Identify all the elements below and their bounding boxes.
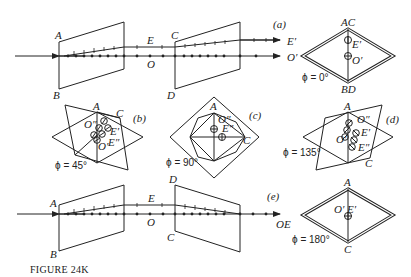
- svg-text:E′: E′: [360, 126, 371, 138]
- label-E: E: [146, 34, 154, 46]
- svg-text:O′: O′: [352, 54, 363, 66]
- label-C: C: [171, 29, 179, 41]
- svg-text:OE: OE: [276, 218, 291, 230]
- svg-text:ϕ = 0°: ϕ = 0°: [302, 72, 329, 83]
- panel-tag-a: (a): [273, 18, 286, 31]
- svg-text:ϕ = 45°: ϕ = 45°: [55, 160, 87, 171]
- svg-text:D: D: [168, 173, 177, 185]
- svg-text:ϕ = 180°: ϕ = 180°: [292, 234, 330, 245]
- svg-text:C: C: [116, 107, 124, 119]
- panel-tag-d: (d): [386, 113, 399, 126]
- svg-text:E″: E″: [107, 136, 120, 148]
- label-O-prime: O′: [287, 51, 298, 63]
- svg-text:C: C: [243, 134, 251, 146]
- birefringence-figure: A B E O C: [0, 0, 411, 277]
- label-E-prime: E′: [286, 35, 297, 47]
- svg-text:O″: O″: [84, 118, 97, 130]
- panel-tag-e: (e): [267, 190, 280, 203]
- end-view-e: A C O′ E′ ϕ = 180°: [292, 176, 393, 255]
- panel-d: A O″ E′ E″ O′ C (d) ϕ = 135°: [283, 100, 399, 170]
- svg-text:C: C: [365, 157, 373, 169]
- svg-text:E′: E′: [351, 38, 362, 50]
- svg-text:O″: O″: [357, 113, 370, 125]
- svg-text:BD: BD: [341, 83, 356, 95]
- svg-text:E: E: [147, 192, 155, 204]
- svg-text:A: A: [343, 176, 351, 188]
- label-A: A: [54, 29, 62, 41]
- svg-text:E″: E″: [357, 141, 370, 153]
- svg-text:A: A: [92, 100, 100, 112]
- panel-tag-c: (c): [249, 109, 262, 122]
- svg-text:O: O: [147, 216, 155, 228]
- svg-text:A: A: [209, 100, 217, 112]
- label-O: O: [147, 58, 155, 70]
- svg-text:ϕ = 135°: ϕ = 135°: [283, 147, 321, 158]
- svg-text:E″: E″: [221, 122, 234, 134]
- panel-c: A C O″ E″ (c) ϕ = 90°: [166, 97, 262, 178]
- svg-text:A: A: [343, 100, 351, 112]
- panel-b: A C O″ E′ E″ O′ (b) ϕ = 45°: [52, 100, 146, 171]
- svg-text:AC: AC: [340, 16, 356, 28]
- end-view-a: AC BD E′ O′ ϕ = 0°: [302, 16, 393, 95]
- label-D: D: [166, 89, 175, 101]
- svg-text:C: C: [344, 243, 352, 255]
- svg-text:B: B: [50, 248, 57, 260]
- figure-caption: FIGURE 24K: [30, 264, 89, 275]
- panel-tag-b: (b): [133, 112, 146, 125]
- svg-text:O′ E′: O′ E′: [334, 203, 357, 215]
- label-B: B: [53, 89, 60, 101]
- svg-text:O′: O′: [336, 133, 347, 145]
- panel-e: A B E O D C (e) OE: [17, 173, 393, 260]
- svg-text:O′: O′: [98, 140, 109, 152]
- panel-a: A B E O C: [15, 16, 393, 101]
- svg-text:A: A: [49, 197, 57, 209]
- svg-text:ϕ = 90°: ϕ = 90°: [166, 157, 198, 168]
- svg-text:C: C: [167, 231, 175, 243]
